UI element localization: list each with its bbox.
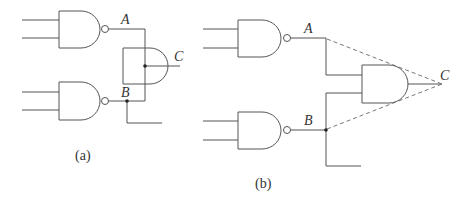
nand-gate-icon [238,20,281,57]
figure-a-nand-bottom [22,82,109,120]
inverter-bubble-icon [284,35,291,42]
caption-a: (a) [75,148,91,164]
figure-a-nand-top [22,11,109,48]
inverter-bubble-icon [102,98,109,105]
inverter-bubble-icon [284,127,291,134]
nand-gate-icon [59,82,100,120]
wire-b-branch [127,101,162,123]
label-a: A [120,12,130,27]
wire-b-path [326,93,362,166]
label-c: C [174,49,184,64]
inverter-bubble-icon [102,26,109,33]
label-b: B [304,113,313,128]
label-a: A [303,21,313,36]
figure-b-nand-bottom [203,112,291,149]
logic-circuit-figure: A B C (a) A B C [0,0,467,200]
figure-b-nand-top [203,20,291,57]
nand-gate-icon [59,11,100,48]
figure-a: A B C (a) [22,11,184,164]
figure-b: A B C (b) [203,20,450,192]
junction-dot [143,64,147,68]
wire-a [291,38,363,75]
caption-b: (b) [255,176,272,192]
label-b: B [121,85,130,100]
and-gate-icon [362,65,408,103]
nand-gate-icon [238,112,281,149]
label-c: C [440,68,450,83]
